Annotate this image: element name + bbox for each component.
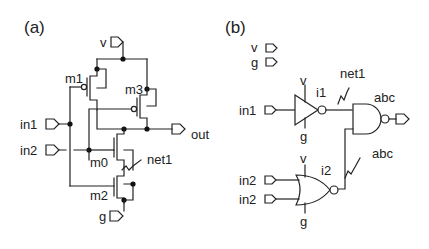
- global-vdd-pin[interactable]: [266, 44, 277, 52]
- net1-leader: [338, 88, 349, 104]
- output-net: [97, 110, 172, 129]
- global-vdd-label: v: [251, 40, 258, 55]
- nand-gate-label: abc: [374, 90, 395, 105]
- in1-pin[interactable]: [46, 119, 59, 129]
- nand-gate[interactable]: [353, 104, 409, 134]
- nor-input-pin-1[interactable]: [265, 176, 276, 184]
- abc-leader: [345, 158, 360, 178]
- junction-dot: [67, 121, 72, 126]
- vdd-pin-label: v: [100, 35, 107, 50]
- in1-net: [59, 87, 70, 186]
- inverter-input-pin[interactable]: [265, 106, 276, 114]
- transistor-m0-label: m0: [90, 155, 108, 170]
- panel-b: (b) v g in1 v g i1 net1: [225, 18, 409, 229]
- abc-wire: [338, 129, 353, 189]
- panel-b-title: (b): [225, 18, 246, 37]
- transistor-m3-label: m3: [125, 82, 143, 97]
- nor-input-label-2: in2: [239, 192, 256, 207]
- nor-ground-label: g: [300, 214, 307, 229]
- inverter-input-label: in1: [239, 103, 256, 118]
- in1-pin-label: in1: [20, 117, 37, 132]
- panel-a: (a) v m1 m3: [20, 18, 209, 224]
- transistor-m1-label: m1: [65, 71, 83, 86]
- nor-input-pin-2[interactable]: [265, 195, 276, 203]
- net1-label: net1: [147, 152, 172, 167]
- abc-net-label: abc: [372, 146, 393, 161]
- nor-input-label-1: in2: [239, 173, 256, 188]
- net1-label: net1: [340, 66, 365, 81]
- in2-pin[interactable]: [46, 145, 59, 155]
- inverter-supply-label: v: [300, 73, 307, 88]
- transistor-m2-label: m2: [90, 188, 108, 203]
- schematic-canvas: (a) v m1 m3: [0, 0, 429, 249]
- in2-pin-label: in2: [20, 143, 37, 158]
- junction-dot: [120, 56, 125, 61]
- nor-gate-i2[interactable]: [296, 165, 338, 213]
- inverter-ground-label: g: [300, 129, 307, 144]
- vdd-pin[interactable]: [111, 37, 123, 59]
- nor-supply-label: v: [300, 151, 307, 166]
- inverter-instance-label: i1: [316, 85, 326, 100]
- global-gnd-pin[interactable]: [266, 58, 277, 66]
- net1-leader: [122, 160, 141, 170]
- nor-instance-label: i2: [321, 163, 331, 178]
- junction-dot: [144, 126, 149, 131]
- panel-a-title: (a): [24, 18, 45, 37]
- out-pin-label: out: [191, 127, 209, 142]
- transistor-m3[interactable]: [89, 59, 156, 160]
- gnd-pin[interactable]: [110, 211, 123, 221]
- out-pin[interactable]: [172, 124, 185, 134]
- gnd-pin-label: g: [99, 209, 106, 224]
- global-gnd-label: g: [251, 55, 258, 70]
